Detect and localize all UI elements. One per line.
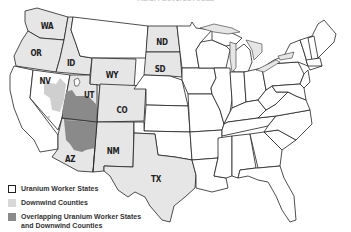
legend-item-uranium-worker-states: Uranium Worker States: [8, 185, 141, 199]
legend-swatch-dark-gray: [8, 213, 16, 221]
label-wa: WA: [41, 22, 54, 31]
label-az: AZ: [65, 155, 75, 164]
label-co: CO: [117, 106, 128, 115]
state-ks: [144, 105, 190, 132]
legend-label: Uranium Worker States: [21, 185, 98, 194]
state-fl: [238, 166, 296, 222]
label-nv: NV: [40, 77, 52, 86]
legend-swatch-outlined: [8, 185, 16, 193]
legend-item-downwind-counties: Downwind Counties: [8, 199, 141, 213]
label-id: ID: [67, 59, 75, 68]
legend-label-line2: and Downwind Counties: [21, 222, 102, 229]
lake-michigan: [230, 42, 236, 72]
label-tx: TX: [151, 175, 162, 184]
legend-label: Overlapping Uranium Worker States and Do…: [21, 213, 141, 230]
label-or: OR: [30, 49, 42, 58]
legend-label: Downwind Counties: [21, 199, 88, 208]
label-nd: ND: [156, 38, 168, 47]
legend-swatch-light-gray: [8, 199, 16, 207]
label-ut: UT: [84, 91, 95, 100]
label-sd: SD: [155, 65, 166, 74]
label-nm: NM: [107, 147, 120, 156]
downwind-county-nv-small: [48, 116, 50, 118]
legend-label-line1: Overlapping Uranium Worker States: [21, 213, 141, 220]
legend-item-overlap: Overlapping Uranium Worker States and Do…: [8, 213, 141, 232]
state-co: [97, 84, 146, 122]
map-legend: Uranium Worker States Downwind Counties …: [8, 185, 141, 232]
state-ia: [182, 68, 216, 94]
state-ar: [190, 130, 222, 160]
state-mt: [71, 17, 148, 58]
label-wy: WY: [106, 71, 120, 80]
